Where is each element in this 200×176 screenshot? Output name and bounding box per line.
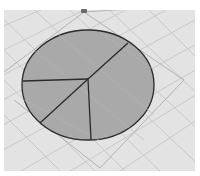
chart-canvas[interactable] bbox=[4, 10, 195, 171]
pie-chart-svg bbox=[4, 10, 195, 171]
pie bbox=[22, 30, 154, 140]
drag-handle-icon[interactable] bbox=[81, 9, 87, 13]
